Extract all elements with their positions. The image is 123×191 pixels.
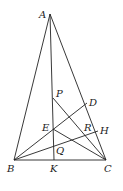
segments bbox=[14, 14, 106, 160]
label-c: C bbox=[104, 163, 112, 174]
label-h: H bbox=[99, 125, 109, 136]
label-a: A bbox=[38, 9, 46, 20]
label-k: K bbox=[49, 163, 58, 174]
label-r: R bbox=[83, 122, 92, 133]
label-d: D bbox=[88, 97, 97, 108]
label-p: P bbox=[55, 88, 63, 99]
segment-ak bbox=[50, 14, 54, 160]
segment-ab bbox=[14, 14, 50, 160]
geometry-diagram: A P D E R H Q B K C bbox=[0, 0, 123, 191]
point-labels: A P D E R H Q B K C bbox=[6, 9, 112, 174]
label-e: E bbox=[41, 122, 50, 133]
segment-bd bbox=[14, 103, 87, 160]
label-q: Q bbox=[56, 145, 64, 156]
label-b: B bbox=[6, 163, 14, 174]
